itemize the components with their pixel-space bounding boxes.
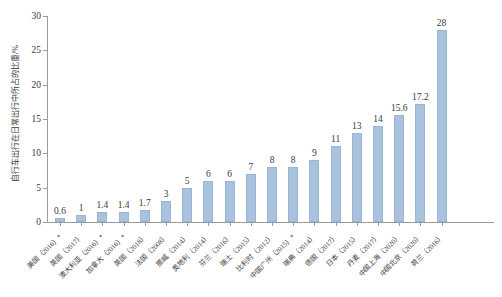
bar-slot[interactable]: 8 [262,16,282,222]
bar-value-label: 11 [331,134,340,144]
bar[interactable] [288,167,298,222]
bar-value-label: 17.2 [412,92,429,102]
bar-slot[interactable]: 1.4 [92,16,112,222]
bar[interactable] [437,30,447,222]
bar[interactable] [97,212,107,222]
bar-value-label: 6 [227,169,232,179]
bar-slot[interactable]: 6 [198,16,218,222]
bar-slot[interactable]: 6 [220,16,240,222]
bar-slot[interactable]: 5 [177,16,197,222]
plot-area: 051015202530 0.611.41.41.735667889111314… [47,16,494,222]
bar[interactable] [161,201,171,222]
bar-value-label: 9 [312,148,317,158]
bar-value-label: 1.4 [118,200,130,210]
x-tick-mark [378,222,379,226]
y-tick-mark [43,85,47,86]
bar-value-label: 6 [206,169,211,179]
bar-slot[interactable]: 1.7 [135,16,155,222]
bar-value-label: 3 [164,189,169,199]
y-tick-mark [43,153,47,154]
bar[interactable] [394,115,404,222]
bar-value-label: 28 [437,18,447,28]
y-tick-label: 20 [32,80,42,90]
bar-slot[interactable]: 14 [368,16,388,222]
bar-value-label: 1.7 [139,198,151,208]
y-tick-label: 5 [36,183,41,193]
x-tick-mark [314,222,315,226]
x-tick-mark [357,222,358,226]
x-tick-mark [420,222,421,226]
x-tick-mark [124,222,125,226]
bar-chart: 自行车出行在日常出行中所占的比重/% 051015202530 0.611.41… [0,0,502,297]
bar-value-label: 13 [352,121,362,131]
y-tick-label: 0 [36,217,41,227]
x-axis-line [47,222,494,223]
bar[interactable] [76,215,86,222]
y-tick-mark [43,188,47,189]
y-tick-label: 25 [32,45,42,55]
bar[interactable] [415,104,425,222]
bar[interactable] [203,181,213,222]
x-tick-mark [251,222,252,226]
x-tick-mark [81,222,82,226]
bar-slot[interactable]: 9 [304,16,324,222]
bar-value-label: 14 [373,114,383,124]
x-tick-mark [336,222,337,226]
bar[interactable] [373,126,383,222]
bar[interactable] [140,210,150,222]
y-tick-label: 10 [32,148,42,158]
bar[interactable] [119,212,129,222]
bar-value-label: 8 [291,155,296,165]
x-tick-mark [145,222,146,226]
bar-value-label: 15.6 [391,103,408,113]
bar-slot[interactable]: 8 [283,16,303,222]
bar-value-label: 7 [248,162,253,172]
y-tick-label: 30 [32,11,42,21]
y-tick-label: 15 [32,114,42,124]
bar-slot[interactable]: 17.2 [410,16,430,222]
x-tick-mark [166,222,167,226]
x-tick-mark [208,222,209,226]
bar-slot[interactable]: 0.6 [50,16,70,222]
x-tick-mark [293,222,294,226]
y-tick-mark [43,16,47,17]
y-tick-mark [43,222,47,223]
bar[interactable] [352,133,362,222]
x-tick-mark [60,222,61,226]
y-axis-line [47,16,48,222]
bar-slot[interactable]: 7 [241,16,261,222]
bar[interactable] [267,167,277,222]
bar[interactable] [331,146,341,222]
bar-slot[interactable]: 1.4 [114,16,134,222]
bar-slot[interactable]: 1 [71,16,91,222]
x-tick-mark [187,222,188,226]
bar-slot[interactable]: 15.6 [389,16,409,222]
y-tick-mark [43,50,47,51]
x-tick-mark [272,222,273,226]
bar[interactable] [182,188,192,222]
bar-value-label: 5 [185,176,190,186]
x-tick-mark [442,222,443,226]
y-tick-mark [43,119,47,120]
bar-slot[interactable]: 13 [347,16,367,222]
x-tick-mark [102,222,103,226]
bar-value-label: 0.6 [54,206,66,216]
bar[interactable] [225,181,235,222]
bar-slot[interactable]: 11 [326,16,346,222]
x-tick-mark [399,222,400,226]
bar-value-label: 1.4 [96,200,108,210]
y-axis-title: 自行车出行在日常出行中所占的比重/% [9,4,20,224]
bar[interactable] [246,174,256,222]
bar-slot[interactable]: 3 [156,16,176,222]
x-tick-mark [230,222,231,226]
bar-value-label: 8 [270,155,275,165]
bar[interactable] [309,160,319,222]
bar-value-label: 1 [79,203,84,213]
bar-slot[interactable]: 28 [432,16,452,222]
